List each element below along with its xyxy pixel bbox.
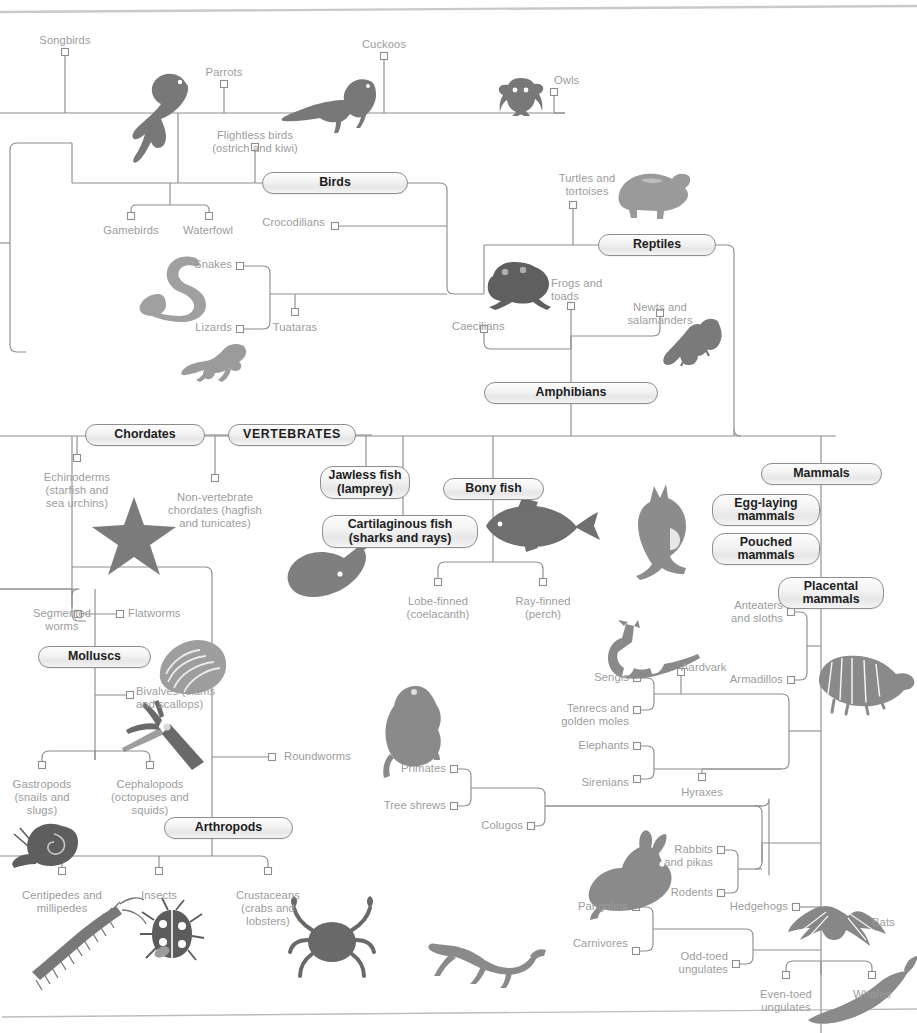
leaf-label-cuckoos: Cuckoos (362, 38, 406, 51)
leaf-label-tenrecs: Tenrecs and golden moles (561, 702, 629, 728)
leaf-label-tuataras: Tuataras (273, 321, 318, 334)
leaf-label-bats: Bats (872, 916, 895, 929)
leaf-label-lizards: Lizards (195, 321, 232, 334)
clade-pill-mammals[interactable]: Mammals (761, 463, 882, 485)
clade-pill-bony[interactable]: Bony fish (443, 478, 544, 500)
leaf-label-parrots: Parrots (206, 66, 243, 79)
leaf-label-whales: Whales (853, 988, 891, 1001)
leaf-label-roundworms: Roundworms (284, 750, 351, 763)
leaf-label-non-vertebrate: Non-vertebrate chordates (hagfish and tu… (168, 491, 262, 530)
leaf-label-hyraxes: Hyraxes (681, 786, 723, 799)
clade-pill-molluscs[interactable]: Molluscs (38, 646, 151, 668)
leaf-label-lobe-finned: Lobe-finned (coelacanth) (407, 595, 470, 621)
leaf-label-sirenians: Sirenians (581, 776, 629, 789)
leaf-label-gamebirds: Gamebirds (103, 224, 159, 237)
leaf-label-cephalopods: Cephalopods (octopuses and squids) (111, 778, 189, 817)
leaf-label-newts: Newts and salamanders (627, 301, 692, 327)
clade-pill-egglaying[interactable]: Egg-laying mammals (712, 494, 820, 526)
tree-of-life-diagram: SongbirdsParrotsCuckoosOwlsFlightless bi… (0, 0, 917, 1033)
leaf-label-pangolins: Pangolins (578, 900, 628, 913)
leaf-label-caecilians: Caecilians (452, 320, 505, 333)
leaf-label-odd-toed: Odd-toed ungulates (679, 950, 728, 976)
leaf-label-insects: Insects (141, 889, 177, 902)
leaf-label-crustaceans: Crustaceans (crabs and lobsters) (236, 889, 300, 928)
leaf-label-anteaters: Anteaters and sloths (731, 599, 783, 625)
clade-pill-placental[interactable]: Placental mammals (778, 577, 884, 609)
leaf-label-segmented-worms: Segmented worms (33, 607, 91, 633)
clade-pill-cartilaginous[interactable]: Cartilaginous fish (sharks and rays) (322, 515, 478, 548)
clade-pill-amphibians[interactable]: Amphibians (484, 382, 658, 404)
clade-pill-reptiles[interactable]: Reptiles (598, 234, 716, 256)
leaf-label-songbirds: Songbirds (39, 34, 90, 47)
leaf-label-gastropods: Gastropods (snails and slugs) (13, 778, 72, 817)
clade-pill-birds[interactable]: Birds (262, 172, 408, 194)
leaf-label-armadillos: Armadillos (730, 673, 783, 686)
clade-pill-chordates[interactable]: Chordates (85, 424, 205, 446)
clade-pill-jawless[interactable]: Jawless fish (lamprey) (320, 466, 410, 499)
leaf-label-flatworms: Flatworms (128, 607, 181, 620)
leaf-label-aardvark: Aardvark (681, 661, 727, 674)
leaf-label-colugos: Colugos (481, 819, 523, 832)
leaf-label-rodents: Rodents (671, 886, 713, 899)
clade-pill-arthropods[interactable]: Arthropods (164, 817, 293, 839)
leaf-label-waterfowl: Waterfowl (183, 224, 233, 237)
leaf-label-turtles: Turtles and tortoises (559, 172, 616, 198)
leaf-label-ray-finned: Ray-finned (perch) (515, 595, 570, 621)
leaf-label-frogs: Frogs and toads (551, 277, 602, 303)
leaf-label-carnivores: Carnivores (573, 937, 628, 950)
leaf-label-even-toed: Even-toed ungulates (760, 988, 812, 1014)
leaf-label-snakes: Snakes (194, 258, 232, 271)
leaf-label-echinoderms: Echinoderms (starfish and sea urchins) (44, 471, 110, 510)
leaf-label-flightless-birds: Flightless birds (ostrich and kiwi) (212, 129, 298, 155)
clade-pill-pouched[interactable]: Pouched mammals (712, 533, 820, 565)
leaf-label-elephants: Elephants (578, 739, 629, 752)
leaf-label-owls: Owls (554, 74, 579, 87)
leaf-label-centipedes: Centipedes and millipedes (22, 889, 102, 915)
leaf-label-sengis: Sengis (594, 671, 629, 684)
leaf-label-rabbits: Rabbits and pikas (664, 843, 713, 869)
diagram-labels: SongbirdsParrotsCuckoosOwlsFlightless bi… (0, 0, 917, 1033)
leaf-label-hedgehogs: Hedgehogs (730, 900, 788, 913)
leaf-label-crocodilians: Crocodilians (262, 216, 325, 229)
clade-pill-vertebrates[interactable]: VERTEBRATES (228, 424, 356, 446)
leaf-label-bivalves: Bivalves (clams and scallops) (136, 685, 215, 711)
leaf-label-tree-shrews: Tree shrews (384, 799, 446, 812)
leaf-label-primates: Primates (401, 762, 446, 775)
